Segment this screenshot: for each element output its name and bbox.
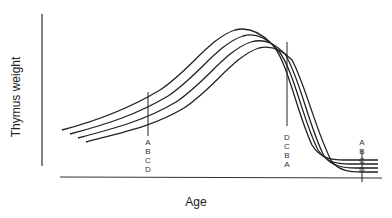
marker-label: B bbox=[282, 151, 292, 160]
curve-b bbox=[70, 35, 378, 164]
marker-label: C bbox=[143, 156, 153, 165]
y-axis-label: Thymus weight bbox=[6, 0, 26, 218]
marker-label: A bbox=[357, 138, 367, 147]
marker-labels-3: A B C D bbox=[357, 138, 367, 174]
marker-label: D bbox=[143, 165, 153, 174]
marker-label: C bbox=[357, 156, 367, 165]
marker-label: B bbox=[357, 147, 367, 156]
marker-labels-2: D C B A bbox=[282, 133, 292, 169]
curve-a bbox=[62, 29, 378, 160]
y-axis-label-text: Thymus weight bbox=[9, 57, 23, 138]
marker-label: D bbox=[282, 133, 292, 142]
marker-label: B bbox=[143, 147, 153, 156]
x-axis bbox=[60, 177, 382, 178]
marker-label: A bbox=[143, 138, 153, 147]
marker-label: A bbox=[282, 160, 292, 169]
curve-d bbox=[86, 47, 378, 172]
chart-canvas bbox=[0, 0, 392, 218]
x-axis-label: Age bbox=[0, 195, 392, 209]
curve-c bbox=[78, 41, 378, 168]
marker-label: C bbox=[282, 142, 292, 151]
marker-labels-1: A B C D bbox=[143, 138, 153, 174]
marker-label: D bbox=[357, 165, 367, 174]
